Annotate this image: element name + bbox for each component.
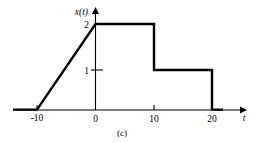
x-tick-label-20: 20 [207,114,217,124]
x-tick-label-0: 0 [93,114,98,124]
y-tick-label-1: 1 [84,66,89,76]
plot-svg: -10 0 10 20 2 1 x(t) t (c) [0,0,255,143]
x-axis-label: t [243,113,246,123]
signal-plot-figure: -10 0 10 20 2 1 x(t) t (c) [0,0,255,143]
y-axis-label: x(t) [74,7,88,18]
x-tick-label-minus10: -10 [31,113,44,123]
y-tick-label-2: 2 [84,20,89,30]
signal-waveform [13,24,223,110]
y-axis-arrowhead [92,7,99,14]
figure-caption: (c) [117,128,127,138]
x-tick-label-10: 10 [149,114,159,124]
